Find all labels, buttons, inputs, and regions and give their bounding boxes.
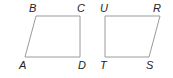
geometry-figure: ABCD TURS xyxy=(0,0,173,78)
vertex-label-u: U xyxy=(100,2,108,14)
vertex-label-a: A xyxy=(18,59,26,71)
vertex-label-b: B xyxy=(29,2,36,14)
quadrilateral-turs xyxy=(105,16,160,57)
vertex-label-s: S xyxy=(146,59,154,71)
vertex-label-r: R xyxy=(153,2,161,14)
quadrilateral-abcd xyxy=(25,16,80,57)
vertex-label-c: C xyxy=(77,2,85,14)
vertex-label-t: T xyxy=(100,59,108,71)
vertex-label-d: D xyxy=(78,59,86,71)
